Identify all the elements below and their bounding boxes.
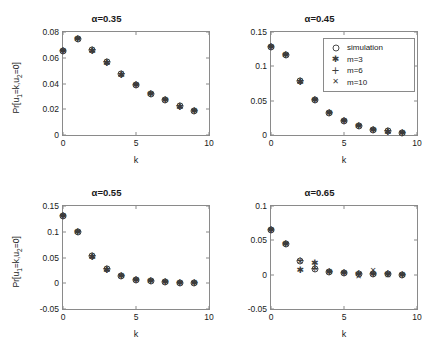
subplot-alpha-0-35: α=0.35 Pr[u1=k,u2=0] 00.020.040.060.0805… [0,0,213,174]
x-tick-mark [63,32,64,35]
x-axis-label: k [270,329,418,339]
x-tick-mark [209,306,210,309]
x-tick-mark [271,206,272,209]
x-tick-mark [136,132,137,135]
x-tick-mark [63,132,64,135]
y-tick-mark [63,57,66,58]
y-tick-label: 0.05 [250,96,271,106]
x-tick-mark [417,206,418,209]
y-tick-label: 0.05 [42,253,63,263]
y-tick-label: 0 [262,270,271,280]
y-tick-mark [206,109,209,110]
x-tick-mark [271,32,272,35]
y-tick-mark [206,283,209,284]
legend-label: m=10 [343,78,367,87]
y-tick-label: -0.05 [248,304,271,314]
plus-icon: + [328,65,343,77]
plot-area: -0.0500.050.10510✱✱✱✱✱✱✱✱✱✱++++++++++✕✕✕… [270,205,418,310]
plot-area: 00.020.040.060.080510✱✱✱✱✱✱✱✱✱✱+++++++++… [62,31,210,136]
legend-item-m6: + m=6 [328,65,409,77]
x-tick-mark [271,306,272,309]
x-tick-label: 10 [412,309,421,322]
y-tick-mark [63,257,66,258]
subplot-title: α=0.65 [213,187,426,198]
legend-item-m3: ✱ m=3 [328,54,409,66]
y-tick-mark [206,257,209,258]
x-tick-mark [136,32,137,35]
y-tick-mark [206,231,209,232]
x-tick-label: 5 [342,309,347,322]
y-tick-mark [414,100,417,101]
x-tick-mark [209,132,210,135]
subplot-title: α=0.55 [0,187,213,198]
y-tick-label: 0.1 [255,61,271,71]
subplot-title: α=0.45 [213,13,426,24]
x-tick-mark [209,206,210,209]
circle-icon [328,42,343,54]
y-tick-label: 0 [54,278,63,288]
y-tick-mark [271,274,274,275]
x-tick-mark [209,32,210,35]
y-tick-mark [414,240,417,241]
y-tick-label: 0.05 [250,235,271,245]
x-tick-label: 0 [269,135,274,148]
legend-item-m10: ✕ m=10 [328,77,409,89]
x-tick-mark [63,306,64,309]
y-axis-label: Pr[u1=k,u2=0] [11,38,23,138]
x-tick-mark [344,306,345,309]
y-tick-mark [206,83,209,84]
y-tick-label: 0.02 [42,104,63,114]
y-tick-label: 0.08 [42,27,63,37]
x-tick-mark [417,32,418,35]
subplot-alpha-0-65: α=0.65 -0.0500.050.10510✱✱✱✱✱✱✱✱✱✱++++++… [213,174,426,348]
y-tick-mark [206,57,209,58]
figure-canvas: α=0.35 Pr[u1=k,u2=0] 00.020.040.060.0805… [0,0,426,348]
y-tick-mark [414,274,417,275]
y-tick-mark [63,83,66,84]
x-tick-mark [63,206,64,209]
y-tick-mark [63,283,66,284]
y-axis-label: Pr[u1=k,u2=0] [11,212,23,312]
y-tick-label: -0.05 [40,304,63,314]
y-tick-label: 0.1 [47,227,63,237]
x-axis-label: k [62,155,210,165]
y-tick-mark [271,100,274,101]
x-tick-mark [344,132,345,135]
cross-icon: ✕ [328,77,343,89]
x-tick-label: 0 [61,309,66,322]
x-tick-label: 5 [342,135,347,148]
y-tick-label: 0.04 [42,79,63,89]
x-axis-label: k [62,329,210,339]
legend-label: m=6 [343,66,363,75]
y-tick-mark [271,66,274,67]
x-tick-mark [344,206,345,209]
y-tick-mark [271,240,274,241]
subplot-title: α=0.35 [0,13,213,24]
x-tick-mark [136,306,137,309]
asterisk-icon: ✱ [328,54,343,66]
plot-area: -0.0500.050.10.150510✱✱✱✱✱✱✱✱✱✱+++++++++… [62,205,210,310]
y-tick-label: 0.15 [250,27,271,37]
y-tick-mark [63,109,66,110]
x-axis-label: k [270,155,418,165]
y-tick-mark [63,231,66,232]
subplot-alpha-0-55: α=0.55 Pr[u1=k,u2=0] -0.0500.050.10.1505… [0,174,213,348]
legend-item-simulation: simulation [328,42,409,54]
y-tick-label: 0.1 [255,201,271,211]
x-tick-label: 0 [269,309,274,322]
x-tick-mark [344,32,345,35]
x-tick-label: 5 [134,309,139,322]
legend: simulation ✱ m=3 + m=6 ✕ m=10 [323,38,415,92]
x-tick-mark [136,206,137,209]
x-tick-label: 0 [61,135,66,148]
x-tick-label: 5 [134,135,139,148]
x-tick-mark [271,132,272,135]
x-tick-label: 10 [412,135,421,148]
legend-label: m=3 [343,55,363,64]
x-tick-mark [417,132,418,135]
legend-label: simulation [343,43,383,52]
subplot-alpha-0-45: α=0.45 00.050.10.150510✱✱✱✱✱✱✱✱✱✱+++++++… [213,0,426,174]
x-tick-mark [417,306,418,309]
